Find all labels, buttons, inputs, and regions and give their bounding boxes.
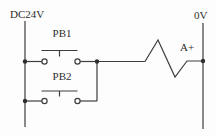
pb1-left-contact-circle xyxy=(42,59,47,64)
pb1-right-contact-circle xyxy=(75,59,80,64)
0v-rail-label: 0V xyxy=(194,9,208,21)
solenoid-zigzag-line xyxy=(145,40,203,77)
pb1-label: PB1 xyxy=(53,27,72,39)
ladder-circuit-svg: DC24V 0V PB1 PB2 A+ xyxy=(0,0,216,136)
pb1-push-button: PB1 xyxy=(25,27,97,64)
circuit-diagram: DC24V 0V PB1 PB2 A+ xyxy=(0,0,216,136)
pb2-left-contact-circle xyxy=(42,98,47,103)
dc24v-rail-label: DC24V xyxy=(10,8,44,20)
pb2-right-contact-circle xyxy=(75,98,80,103)
pb2-label: PB2 xyxy=(53,70,72,82)
pb2-push-button: PB2 xyxy=(25,70,97,104)
junction-dot-rail-pb1 xyxy=(23,59,27,63)
junction-dot-branch xyxy=(95,59,99,63)
junction-dot-0v-rail xyxy=(201,59,205,63)
a-plus-solenoid-label: A+ xyxy=(180,41,194,53)
junction-dot-rail-pb2 xyxy=(23,99,27,103)
